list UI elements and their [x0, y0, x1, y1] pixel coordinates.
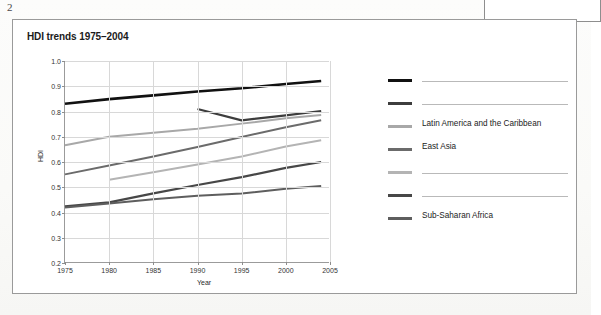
x-tick-mark	[198, 262, 199, 265]
x-tick-label: 1985	[146, 267, 162, 274]
y-tick-mark	[62, 162, 65, 163]
legend-swatch	[388, 79, 412, 82]
legend-swatch	[388, 217, 412, 220]
x-tick-mark	[65, 262, 66, 265]
x-gridline	[109, 61, 110, 262]
x-gridline	[286, 61, 287, 262]
y-tick-mark	[62, 187, 65, 188]
x-tick-label: 1975	[57, 267, 73, 274]
x-tick-label: 1990	[190, 267, 206, 274]
y-tick-mark	[62, 137, 65, 138]
y-tick-mark	[62, 238, 65, 239]
y-tick-label: 0.3	[51, 234, 61, 241]
x-gridline	[330, 61, 331, 262]
y-tick-label: 0.9	[51, 83, 61, 90]
legend-item	[388, 72, 568, 95]
page-number: 2	[7, 1, 13, 13]
y-axis-label: HDI	[37, 150, 44, 162]
legend-label-redacted	[422, 81, 568, 82]
legend-label-redacted	[422, 104, 568, 105]
legend-label-redacted	[422, 173, 568, 174]
y-tick-mark	[62, 213, 65, 214]
x-tick-mark	[109, 262, 110, 265]
y-tick-label: 0.8	[51, 108, 61, 115]
series-line	[65, 81, 321, 104]
x-tick-mark	[330, 262, 331, 265]
y-tick-mark	[62, 112, 65, 113]
legend-label-redacted	[422, 196, 568, 197]
series-line	[65, 162, 321, 206]
y-tick-label: 0.5	[51, 184, 61, 191]
legend-item	[388, 187, 568, 210]
legend-swatch	[388, 102, 412, 105]
legend-item	[388, 95, 568, 118]
chart-legend: Latin America and the CaribbeanEast Asia…	[388, 72, 568, 233]
y-tick-label: 0.6	[51, 159, 61, 166]
plot-area: 0.20.30.40.50.60.70.80.91.01975198019851…	[64, 61, 329, 263]
legend-label: East Asia	[422, 142, 456, 151]
y-tick-label: 0.4	[51, 209, 61, 216]
y-tick-label: 0.2	[51, 260, 61, 267]
series-line	[65, 186, 321, 207]
x-tick-label: 2005	[322, 267, 338, 274]
legend-item: Sub-Saharan Africa	[388, 210, 568, 233]
legend-swatch	[388, 148, 412, 151]
legend-swatch	[388, 171, 412, 174]
legend-swatch	[388, 194, 412, 197]
x-tick-mark	[242, 262, 243, 265]
x-gridline	[198, 61, 199, 262]
y-tick-mark	[62, 61, 65, 62]
legend-item: Latin America and the Caribbean	[388, 118, 568, 141]
x-tick-mark	[286, 262, 287, 265]
y-tick-label: 1.0	[51, 58, 61, 65]
legend-item: East Asia	[388, 141, 568, 164]
x-tick-mark	[153, 262, 154, 265]
y-tick-label: 0.7	[51, 133, 61, 140]
x-gridline	[242, 61, 243, 262]
series-line	[65, 115, 321, 145]
legend-item	[388, 164, 568, 187]
legend-label: Latin America and the Caribbean	[422, 119, 541, 128]
legend-label: Sub-Saharan Africa	[422, 211, 493, 220]
figure-container: HDI trends 1975–2004 HDI Year 0.20.30.40…	[12, 19, 577, 294]
x-gridline	[153, 61, 154, 262]
x-axis-label: Year	[197, 279, 211, 286]
x-tick-label: 1995	[234, 267, 250, 274]
y-tick-mark	[62, 86, 65, 87]
x-tick-label: 1980	[101, 267, 117, 274]
legend-swatch	[388, 125, 412, 128]
x-tick-label: 2000	[278, 267, 294, 274]
